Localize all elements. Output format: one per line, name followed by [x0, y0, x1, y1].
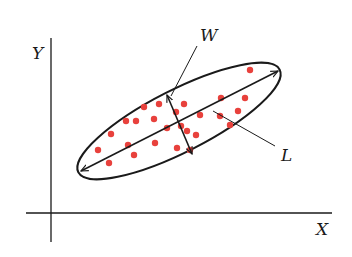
data-point [108, 131, 114, 137]
data-point [235, 108, 241, 114]
data-point [141, 104, 147, 110]
x-axis-label: X [314, 219, 329, 239]
length-leader-line [213, 111, 275, 146]
width-arrow [167, 95, 192, 154]
data-point [181, 101, 187, 107]
data-point [95, 147, 101, 153]
data-point [174, 145, 180, 151]
y-axis-label: Y [32, 43, 45, 63]
length-label: L [280, 145, 292, 165]
data-point [133, 118, 139, 124]
data-point [131, 152, 137, 158]
data-point [227, 122, 233, 128]
data-point [156, 101, 162, 107]
width-leader-line [171, 46, 197, 96]
data-point [106, 160, 112, 166]
ellipse-diagram: Y X W L [0, 0, 352, 257]
data-point [123, 118, 129, 124]
data-point [152, 140, 158, 146]
data-point [197, 112, 203, 118]
data-point [242, 95, 248, 101]
width-label: W [200, 25, 219, 45]
data-point [151, 116, 157, 122]
data-point [247, 67, 253, 73]
data-point [193, 132, 199, 138]
data-point [184, 128, 190, 134]
